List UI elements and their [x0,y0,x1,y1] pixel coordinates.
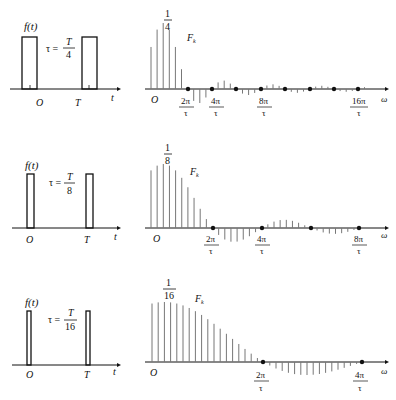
series-label: Fk [189,166,199,178]
svg-text:8π: 8π [354,234,364,244]
ylabel: f(t) [25,159,39,172]
svg-text:4π: 4π [355,370,365,380]
series-label: Fk [194,293,204,305]
time-plot-3: f(t) τ = T 16 O T t [12,296,121,380]
time-plot-1: f(t) τ = T 4 O T t [10,20,121,108]
series-label: Fk [186,32,196,44]
origin-label: O [26,234,33,245]
svg-text:16π: 16π [352,96,366,106]
svg-text:2π: 2π [181,96,191,106]
spectrum-plot-2: 1 8 Fk O ω 2π τ 4π τ 8π τ [145,142,389,256]
xlabel: ω [381,230,387,240]
svg-text:4π: 4π [211,96,221,106]
svg-text:τ: τ [358,383,362,393]
peak-den: 8 [165,155,170,166]
svg-text:τ: τ [259,383,263,393]
zero-dot [357,226,361,230]
tick-label: 4π τ [255,234,270,256]
svg-text:4π: 4π [257,234,267,244]
row-3: f(t) τ = T 16 O T t 1 16 Fk O ω 2π τ [12,277,389,393]
figure-canvas: f(t) τ = T 4 O T t 1 4 Fk O ω 2π τ [0,0,396,400]
xlabel: t [113,366,116,377]
svg-text:τ: τ [214,108,218,118]
tau-den: 4 [66,49,71,60]
pulse-1 [27,174,34,228]
ylabel: f(t) [24,20,38,33]
tick-label: 8π τ [257,96,272,118]
origin-label: O [153,233,160,244]
pulse-1 [27,311,31,365]
peak-num: 1 [165,142,170,153]
svg-text:τ: τ [357,108,361,118]
svg-text:2π: 2π [256,370,266,380]
tau-num: T [68,307,75,318]
arrow-icon [385,360,389,364]
spectral-lines [151,164,354,242]
tick-label: 4π τ [209,96,224,118]
zero-dot [186,87,190,91]
zero-dot [211,226,215,230]
arrow-icon [117,363,121,367]
xlabel: t [111,92,114,103]
tick-label: 8π τ [352,234,367,256]
arrow-icon [117,226,121,230]
zero-dot [260,226,264,230]
zero-dot [332,87,336,91]
zero-dot [234,87,238,91]
period-label: T [75,97,82,108]
tau-num: T [66,36,73,47]
origin-label: O [36,97,43,108]
spectrum-plot-1: 1 4 Fk O ω 2π τ 4π τ 8π τ 16π [145,8,389,118]
spectral-lines [152,302,357,375]
zero-dot [309,226,313,230]
origin-label: O [26,369,33,380]
peak-den: 4 [165,21,170,32]
peak-num: 1 [165,8,170,19]
zero-dot [308,87,312,91]
period-label: T [84,234,91,245]
svg-text:τ: τ [184,108,188,118]
zero-dot [360,360,364,364]
zero-dot [210,87,214,91]
tick-label: 2π τ [179,96,194,118]
pulse-2 [82,37,97,89]
row-1: f(t) τ = T 4 O T t 1 4 Fk O ω 2π τ [10,8,389,118]
pulse-1 [22,37,37,89]
zero-dot [283,87,287,91]
tau-label: τ = [48,314,61,325]
ylabel: f(t) [25,296,39,309]
tau-label: τ = [49,177,62,188]
arrow-icon [117,87,121,91]
pulse-2 [86,174,93,228]
svg-text:8π: 8π [259,96,269,106]
xlabel: ω [381,94,387,104]
peak-den: 16 [164,290,174,301]
zero-dot [356,87,360,91]
row-2: f(t) τ = T 8 O T t 1 8 Fk O ω 2π τ [12,142,389,256]
svg-text:τ: τ [262,108,266,118]
origin-label: O [151,94,158,105]
tau-den: 8 [67,185,72,196]
tick-label: 16π τ [350,96,368,118]
origin-label: O [150,367,157,378]
svg-text:τ: τ [209,246,213,256]
tick-label: 2π τ [204,234,219,256]
spectrum-plot-3: 1 16 Fk O ω 2π τ 4π τ [145,277,389,393]
peak-num: 1 [166,277,171,288]
arrow-icon [385,87,389,91]
period-label: T [84,369,91,380]
zero-dot [259,87,263,91]
pulse-2 [86,311,90,365]
tau-num: T [67,171,74,182]
tau-label: τ = [46,43,59,54]
svg-text:2π: 2π [206,234,216,244]
zero-dot [261,360,265,364]
xlabel: ω [381,366,387,376]
svg-text:τ: τ [357,246,361,256]
tick-label: 2π τ [254,370,269,393]
svg-text:τ: τ [260,246,264,256]
time-plot-2: f(t) τ = T 8 O T t [12,159,121,245]
spectral-lines [151,23,365,103]
xlabel: t [114,231,117,242]
tick-label: 4π τ [353,370,368,393]
